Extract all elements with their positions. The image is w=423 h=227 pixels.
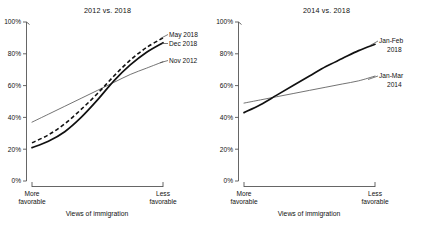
x-axis-right-cap-line2: favorable: [149, 198, 176, 205]
y-tick-marks: [235, 22, 239, 181]
y-tick-label-20: 20%: [220, 146, 233, 153]
y-tick-label-0: 0%: [11, 177, 21, 184]
y-tick-label-20: 20%: [8, 146, 21, 153]
x-axis-right-cap-line1: Less: [156, 190, 171, 197]
x-axis-left-cap-line1: More: [24, 190, 39, 197]
plot-area-right: 100% 80% 60% 40% 20% 0% More favorable L…: [212, 0, 423, 227]
figure-root: 2012 vs. 2018 100% 80% 60% 40% 20% 0%: [0, 0, 423, 227]
series-label-jan-feb-2018-line1: Jan-Feb: [379, 37, 404, 44]
y-tick-label-80: 80%: [220, 50, 233, 57]
x-axis-right-cap-line1: Less: [368, 190, 383, 197]
y-tick-label-0: 0%: [223, 177, 233, 184]
x-axis-bracket: [244, 182, 375, 187]
y-tick-marks: [23, 22, 27, 181]
x-axis-title: Views of immigration: [66, 210, 129, 218]
leader-line-may-2018: [160, 35, 168, 39]
x-axis-right-cap-line2: favorable: [361, 198, 388, 205]
y-tick-label-40: 40%: [8, 114, 21, 121]
x-axis-left-cap-line1: More: [236, 190, 251, 197]
y-tick-label-100: 100%: [216, 18, 233, 25]
plot-area-left: 100% 80% 60% 40% 20% 0% More favorable L…: [0, 0, 211, 227]
series-line-dec-2018: [32, 43, 163, 148]
x-axis-left-cap-line2: favorable: [230, 198, 257, 205]
x-axis-left-cap-line2: favorable: [18, 198, 45, 205]
series-label-dec-2018: Dec 2018: [169, 40, 198, 47]
chart-panel-2014-vs-2018: 2014 vs. 2018 100% 80% 60% 40% 20% 0%: [212, 0, 423, 227]
series-label-nov-2012: Nov 2012: [169, 57, 198, 64]
y-tick-label-40: 40%: [220, 114, 233, 121]
leader-line-nov-2012: [160, 61, 168, 63]
chart-panel-2012-vs-2018: 2012 vs. 2018 100% 80% 60% 40% 20% 0%: [0, 0, 211, 227]
y-tick-label-60: 60%: [220, 82, 233, 89]
x-axis-bracket: [32, 182, 163, 187]
y-tick-label-100: 100%: [4, 18, 21, 25]
y-tick-label-80: 80%: [8, 50, 21, 57]
series-line-nov-2012: [32, 62, 163, 122]
x-axis-title: Views of immigration: [278, 210, 341, 218]
series-label-jan-feb-2018-line2: 2018: [387, 46, 402, 53]
series-label-jan-mar-2014-line2: 2014: [387, 81, 402, 88]
series-label-may-2018: May 2018: [169, 31, 198, 39]
y-axis-top-cap: [27, 22, 30, 25]
series-line-jan-mar-2014: [244, 76, 375, 103]
y-tick-label-60: 60%: [8, 82, 21, 89]
series-label-jan-mar-2014-line1: Jan-Mar: [379, 72, 404, 79]
series-line-jan-feb-2018: [244, 44, 375, 112]
